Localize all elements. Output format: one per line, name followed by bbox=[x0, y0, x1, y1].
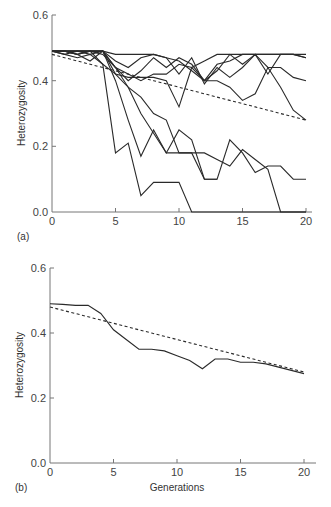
xtick-label: 0 bbox=[49, 215, 55, 227]
ytick-label: 0.2 bbox=[33, 140, 48, 152]
series-line bbox=[50, 304, 304, 374]
figure: 0.6 0.4 0.2 0.0 0 5 10 15 20 Heterozygos… bbox=[0, 0, 331, 507]
series-line bbox=[52, 51, 306, 107]
xtick-label: 15 bbox=[234, 466, 246, 478]
xtick-label: 10 bbox=[171, 466, 183, 478]
xtick-label: 20 bbox=[298, 466, 310, 478]
series-line bbox=[52, 51, 306, 81]
panel-b-x-tick-labels: 0 5 10 15 20 bbox=[47, 466, 310, 478]
ytick-label: 0.6 bbox=[33, 9, 48, 21]
panel-b-axes bbox=[50, 268, 316, 463]
panel-a-y-tick-labels: 0.6 0.4 0.2 0.0 bbox=[33, 9, 48, 218]
panel-a-axes bbox=[52, 15, 312, 212]
panel-b-series bbox=[50, 304, 304, 374]
panel-b-chart: 0.6 0.4 0.2 0.0 0 5 10 15 20 Heterozygos… bbox=[14, 262, 316, 493]
ytick-label: 0.6 bbox=[31, 262, 46, 274]
panel-a-series bbox=[52, 51, 306, 212]
panel-a-chart: 0.6 0.4 0.2 0.0 0 5 10 15 20 Heterozygos… bbox=[16, 9, 312, 242]
panel-a-label: (a) bbox=[17, 231, 29, 242]
xtick-label: 5 bbox=[112, 215, 118, 227]
panel-b-x-axis-title: Generations bbox=[150, 482, 204, 493]
series-line bbox=[52, 51, 217, 179]
xtick-label: 0 bbox=[47, 466, 53, 478]
ytick-label: 0.4 bbox=[33, 75, 48, 87]
ytick-label: 0.2 bbox=[31, 392, 46, 404]
panel-a-x-tick-labels: 0 5 10 15 20 bbox=[49, 215, 312, 227]
panel-b-y-axis-title: Heterozygosity bbox=[14, 332, 25, 398]
ytick-label: 0.4 bbox=[31, 327, 46, 339]
xtick-label: 10 bbox=[173, 215, 185, 227]
ytick-label: 0.0 bbox=[33, 206, 48, 218]
panel-a-y-axis-title: Heterozygosity bbox=[16, 80, 27, 146]
series-line bbox=[52, 51, 306, 212]
expected-line bbox=[50, 307, 304, 372]
xtick-label: 5 bbox=[110, 466, 116, 478]
series-line bbox=[52, 51, 306, 179]
series-line bbox=[52, 51, 306, 212]
panel-b-y-tick-labels: 0.6 0.4 0.2 0.0 bbox=[31, 262, 46, 469]
series-line bbox=[52, 51, 306, 81]
xtick-label: 15 bbox=[236, 215, 248, 227]
panel-b-label: (b) bbox=[15, 482, 27, 493]
ytick-label: 0.0 bbox=[31, 457, 46, 469]
xtick-label: 20 bbox=[300, 215, 312, 227]
